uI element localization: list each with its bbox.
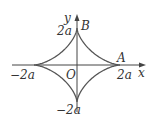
y-axis-label: y [64, 12, 71, 24]
tick-x-neg: −2a [10, 69, 35, 81]
tick-y-pos: 2a [57, 25, 72, 37]
diagram-svg [0, 0, 154, 119]
tick-x-pos: 2a [117, 69, 132, 81]
point-b-label: B [81, 20, 90, 32]
astroid-diagram: y B 2a A −2a O 2a x −2a [0, 0, 154, 119]
x-axis-label: x [138, 67, 145, 79]
point-a-label: A [117, 52, 126, 64]
tick-y-neg: −2a [56, 104, 81, 116]
y-axis-arrow-icon [75, 14, 80, 21]
origin-label: O [66, 69, 76, 81]
